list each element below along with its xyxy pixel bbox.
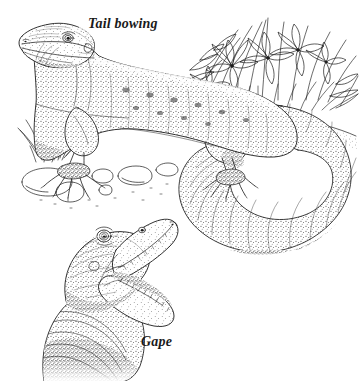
lizard-head-raised	[19, 23, 95, 68]
lizard-tail-bowing	[19, 23, 356, 255]
lizard-behaviour-figure: Tail bowing Gape	[0, 0, 359, 381]
gape-head	[30, 219, 178, 381]
caption-gape: Gape	[141, 335, 172, 349]
caption-tail-bowing: Tail bowing	[88, 17, 158, 31]
illustration-canvas	[0, 0, 359, 381]
lizard-eye-icon	[139, 227, 146, 233]
